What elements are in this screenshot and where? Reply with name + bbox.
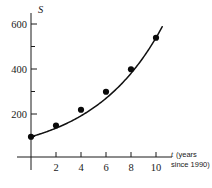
data-point — [78, 107, 84, 113]
y-axis-title: S — [38, 4, 44, 15]
x-tick-label-6: 6 — [103, 162, 108, 173]
y-tick-label-200: 200 — [11, 109, 27, 120]
data-point — [28, 134, 34, 140]
x-tick-label-4: 4 — [78, 162, 84, 173]
data-point — [53, 122, 59, 128]
x-tick-label-2: 2 — [53, 162, 58, 173]
y-tick-label-600: 600 — [11, 19, 27, 30]
fitted-curve — [31, 27, 162, 137]
chart-figure: 600 400 200 2 4 6 8 10 S t (years since … — [0, 0, 212, 188]
data-points-group — [28, 35, 159, 140]
x-tick-label-10: 10 — [151, 162, 162, 173]
y-tick-label-400: 400 — [11, 64, 27, 75]
x-tick-label-8: 8 — [128, 162, 133, 173]
x-axis-title-line1: (years — [176, 150, 197, 159]
data-point — [128, 66, 134, 72]
data-point — [103, 89, 109, 95]
x-axis-title-line2: since 1990) — [171, 160, 210, 169]
chart-plot-area: 600 400 200 2 4 6 8 10 S t (years since … — [0, 0, 212, 188]
x-axis-title-variable: t — [171, 150, 174, 159]
data-point — [153, 35, 159, 41]
